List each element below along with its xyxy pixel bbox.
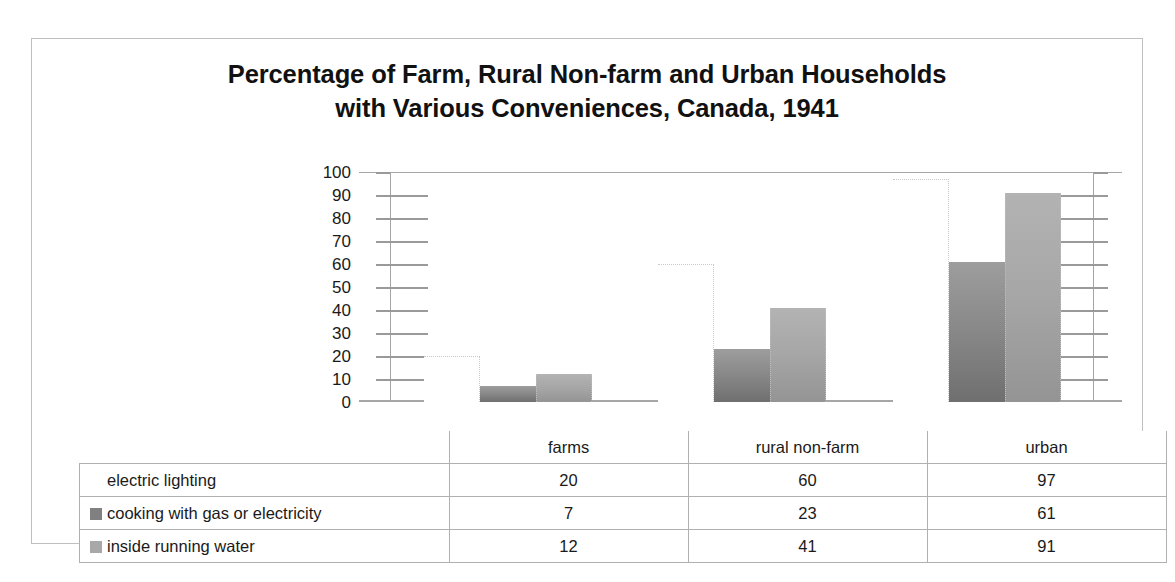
axis-tick-mark (1094, 287, 1108, 289)
chart-title-line-2: with Various Conveniences, Canada, 1941 (32, 91, 1142, 125)
bars-layer (391, 172, 1094, 402)
legend-swatch-icon (90, 541, 102, 553)
table-column-header-farms: farms (449, 431, 688, 464)
y-tick-label: 40 (332, 302, 351, 319)
table-row: electric lighting206097 (80, 464, 1167, 497)
table-row: cooking with gas or electricity72361 (80, 497, 1167, 530)
axis-tick-mark (376, 310, 390, 312)
data-table: farmsrural non-farmurbanelectric lightin… (79, 431, 1167, 563)
bar-rural-non-farm-series-2 (770, 308, 826, 402)
y-tick-label: 70 (332, 233, 351, 250)
bar-group-urban (860, 172, 1094, 402)
chart-title: Percentage of Farm, Rural Non-farm and U… (32, 57, 1142, 125)
series-label: cooking with gas or electricity (107, 504, 322, 522)
axis-tick-mark (376, 172, 390, 174)
axis-tick-mark (1094, 356, 1108, 358)
series-legend-item-0: electric lighting (80, 464, 450, 497)
bar-group-rural-non-farm (625, 172, 859, 402)
chart-title-line-1: Percentage of Farm, Rural Non-farm and U… (32, 57, 1142, 91)
table-cell-value: 20 (449, 464, 688, 497)
y-tick-label: 20 (332, 348, 351, 365)
y-tick-label: 100 (323, 164, 351, 181)
table-cell-value: 41 (688, 530, 927, 563)
y-tick-label: 0 (342, 394, 351, 411)
bar-urban-series-1 (949, 262, 1005, 402)
series-label: inside running water (107, 537, 255, 555)
y-tick-label: 50 (332, 279, 351, 296)
bar-urban-series-2 (1005, 193, 1061, 402)
bar-farms-series-0 (424, 356, 480, 402)
series-legend-item-1: cooking with gas or electricity (80, 497, 450, 530)
axis-tick-mark (376, 218, 390, 220)
axis-tick-mark (376, 333, 390, 335)
axis-tick-mark (1094, 264, 1108, 266)
y-tick-label: 30 (332, 325, 351, 342)
axis-tick-mark (376, 287, 390, 289)
table-row: inside running water124191 (80, 530, 1167, 563)
axis-tick-mark (376, 379, 390, 381)
axis-tick-mark (1094, 333, 1108, 335)
axis-tick-mark (1094, 195, 1108, 197)
y-tick-label: 60 (332, 256, 351, 273)
legend-swatch-icon (90, 475, 102, 487)
table-corner-cell (80, 431, 450, 464)
axis-tick-mark (1094, 218, 1108, 220)
axis-tick-mark (376, 195, 390, 197)
axis-tick-mark (1094, 379, 1108, 381)
bar-group-farms (391, 172, 625, 402)
chart-frame: Percentage of Farm, Rural Non-farm and U… (31, 38, 1143, 544)
table-cell-value: 91 (927, 530, 1166, 563)
axis-tick-mark (1094, 241, 1108, 243)
table-category-row: farmsrural non-farmurban (80, 431, 1167, 464)
axis-tick-mark (1094, 310, 1108, 312)
table-cell-value: 97 (927, 464, 1166, 497)
table-column-header-rural-non-farm: rural non-farm (688, 431, 927, 464)
y-tick-label: 90 (332, 187, 351, 204)
axis-tick-mark (1094, 172, 1108, 174)
axis-tick-mark (376, 241, 390, 243)
axis-tick-mark (376, 264, 390, 266)
bar-rural-non-farm-series-1 (714, 349, 770, 402)
series-legend-item-2: inside running water (80, 530, 450, 563)
bar-urban-series-0 (893, 179, 949, 402)
bar-rural-non-farm-series-0 (658, 264, 714, 402)
y-axis-tick-labels: 1009080706050403020100 (279, 172, 351, 402)
y-tick-label: 10 (332, 371, 351, 388)
table-cell-value: 60 (688, 464, 927, 497)
table-cell-value: 61 (927, 497, 1166, 530)
y-tick-label: 80 (332, 210, 351, 227)
table-cell-value: 12 (449, 530, 688, 563)
table-cell-value: 7 (449, 497, 688, 530)
series-label: electric lighting (107, 471, 216, 489)
bar-farms-series-2 (536, 374, 592, 402)
table-cell-value: 23 (688, 497, 927, 530)
legend-swatch-icon (90, 508, 102, 520)
bar-farms-series-1 (480, 386, 536, 402)
table-column-header-urban: urban (927, 431, 1166, 464)
axis-tick-mark (376, 356, 390, 358)
